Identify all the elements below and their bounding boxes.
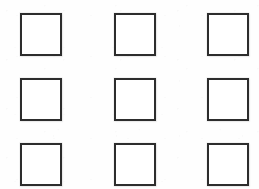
checkbox-r3-c3[interactable]: [207, 143, 249, 186]
checkbox-r1-c2[interactable]: [114, 13, 156, 56]
checkbox-square-icon: [207, 143, 249, 186]
checkbox-r1-c1[interactable]: [20, 13, 62, 56]
checkbox-square-icon: [207, 78, 249, 121]
checkbox-square-icon: [114, 143, 156, 186]
checkbox-square-icon: [20, 78, 62, 121]
checkbox-square-icon: [114, 13, 156, 56]
checkbox-r1-c3[interactable]: [207, 13, 249, 56]
checkbox-r2-c1[interactable]: [20, 78, 62, 121]
checkbox-square-icon: [114, 78, 156, 121]
checkbox-square-icon: [207, 13, 249, 56]
checkbox-r2-c3[interactable]: [207, 78, 249, 121]
checkbox-square-icon: [20, 143, 62, 186]
checkbox-r3-c2[interactable]: [114, 143, 156, 186]
checkbox-square-icon: [20, 13, 62, 56]
checkbox-grid: [0, 0, 259, 189]
page-canvas: [0, 0, 259, 189]
checkbox-r3-c1[interactable]: [20, 143, 62, 186]
checkbox-r2-c2[interactable]: [114, 78, 156, 121]
